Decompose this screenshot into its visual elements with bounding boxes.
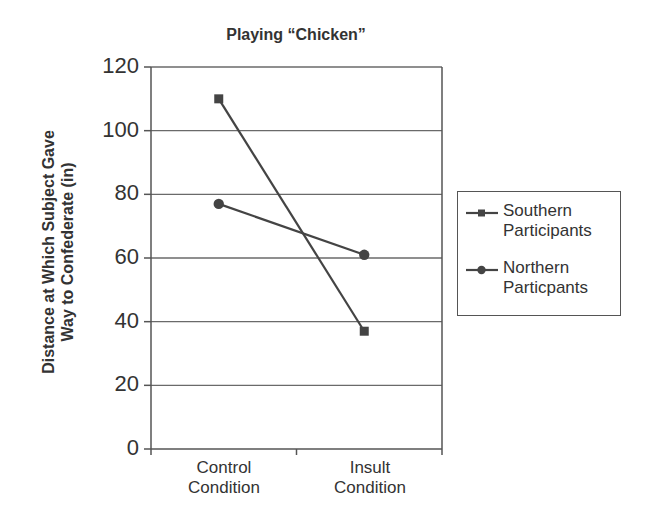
y-tick-label: 40: [99, 310, 139, 332]
y-tick-label: 0: [99, 437, 139, 459]
x-tick-insult: Insult Condition: [310, 458, 430, 498]
x-tick-insult-line-1: Insult: [310, 458, 430, 478]
series-line: [219, 99, 365, 331]
legend-label-northern-1: Northern: [503, 258, 588, 278]
y-tick-label: 80: [99, 182, 139, 204]
y-tick-label: 120: [99, 55, 139, 77]
x-tick-control: Control Condition: [164, 458, 284, 498]
axes: [144, 67, 442, 455]
circle-marker-icon: [214, 199, 224, 209]
square-marker-icon: [464, 207, 500, 219]
circle-marker-icon: [464, 264, 500, 276]
y-tick-label: 100: [99, 119, 139, 141]
x-tick-control-line-1: Control: [164, 458, 284, 478]
legend: Southern Participants Northern Particpan…: [457, 191, 621, 316]
legend-label-northern-2: Particpants: [503, 278, 588, 298]
legend-item-northern: Northern Particpants: [464, 258, 620, 298]
square-marker-icon: [360, 327, 369, 336]
y-tick-label: 60: [99, 246, 139, 268]
circle-marker-icon: [359, 250, 369, 260]
legend-label-southern-1: Southern: [503, 201, 592, 221]
x-tick-insult-line-2: Condition: [310, 478, 430, 498]
series-line: [219, 204, 365, 255]
x-tick-control-line-2: Condition: [164, 478, 284, 498]
square-marker-icon: [214, 94, 223, 103]
legend-label-southern-2: Participants: [503, 221, 592, 241]
gridlines: [151, 67, 442, 385]
legend-item-southern: Southern Participants: [464, 201, 620, 241]
y-tick-label: 20: [99, 373, 139, 395]
